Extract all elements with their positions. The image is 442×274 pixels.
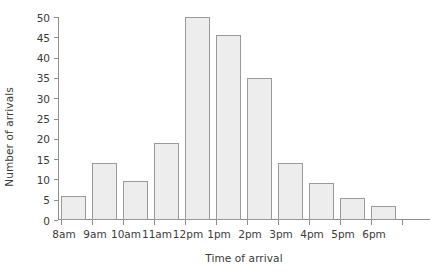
x-axis-tick xyxy=(123,220,124,225)
y-axis-tick-label: 20 xyxy=(37,133,50,145)
y-axis-tick-label: 25 xyxy=(37,113,50,125)
x-axis-tick xyxy=(309,220,310,225)
y-axis-tick-label: 50 xyxy=(37,12,50,24)
y-axis-tick-label: 30 xyxy=(37,93,50,105)
x-axis-tick xyxy=(340,220,341,225)
x-axis-tick xyxy=(185,220,186,225)
y-axis-tick-label: 40 xyxy=(37,52,50,64)
y-axis-tick-label: 5 xyxy=(43,194,50,206)
y-axis-tick-label: 10 xyxy=(37,174,50,186)
x-axis-tick xyxy=(216,220,217,225)
x-axis-tick-label: 12pm xyxy=(173,228,203,240)
bar xyxy=(92,163,117,220)
bar xyxy=(278,163,303,220)
y-axis-tick: 30 xyxy=(54,98,58,99)
bar xyxy=(371,206,396,220)
x-axis-tick-label: 11am xyxy=(142,228,172,240)
y-axis-tick-label: 15 xyxy=(37,154,50,166)
x-axis-tick-label: 6pm xyxy=(362,228,386,240)
y-axis-tick-label: 0 xyxy=(43,215,50,227)
x-axis-tick-label: 5pm xyxy=(331,228,355,240)
bar xyxy=(61,196,86,220)
x-axis-tick xyxy=(92,220,93,225)
y-axis-tick: 20 xyxy=(54,139,58,140)
bar xyxy=(309,183,334,220)
plot-area: 05101520253035404550 8am9am10am11am12pm1… xyxy=(58,17,430,220)
x-axis-tick-label: 3pm xyxy=(269,228,293,240)
bar xyxy=(247,78,272,220)
y-axis-tick-label: 35 xyxy=(37,72,50,84)
x-axis-tick xyxy=(247,220,248,225)
y-axis-tick: 35 xyxy=(54,78,58,79)
bar xyxy=(216,35,241,220)
y-axis-tick: 0 xyxy=(54,220,58,221)
bar xyxy=(340,198,365,220)
x-axis-tick-label: 1pm xyxy=(207,228,231,240)
y-axis-tick-label: 45 xyxy=(37,32,50,44)
bar xyxy=(123,181,148,220)
x-axis-tick-label: 4pm xyxy=(300,228,324,240)
x-axis-title: Time of arrival xyxy=(58,252,430,264)
y-axis-tick: 45 xyxy=(54,37,58,38)
x-axis-tick xyxy=(154,220,155,225)
y-axis-tick: 5 xyxy=(54,200,58,201)
x-axis-tick xyxy=(371,220,372,225)
y-axis-tick: 25 xyxy=(54,119,58,120)
bar xyxy=(185,17,210,220)
y-axis-line xyxy=(58,17,59,220)
x-axis-tick-label: 8am xyxy=(52,228,75,240)
x-axis-tick xyxy=(61,220,62,225)
histogram-chart: Number of arrivals Time of arrival 05101… xyxy=(0,0,442,274)
bar xyxy=(154,143,179,220)
x-axis-tick-label: 2pm xyxy=(238,228,262,240)
x-axis-tick-label: 9am xyxy=(83,228,106,240)
x-axis-tick-label: 10am xyxy=(111,228,141,240)
x-axis-tick xyxy=(402,220,403,225)
y-axis-tick: 15 xyxy=(54,159,58,160)
y-axis-tick: 40 xyxy=(54,58,58,59)
x-axis-tick xyxy=(278,220,279,225)
y-axis-tick: 50 xyxy=(54,17,58,18)
y-axis-title: Number of arrivals xyxy=(0,0,18,274)
y-axis-tick: 10 xyxy=(54,179,58,180)
